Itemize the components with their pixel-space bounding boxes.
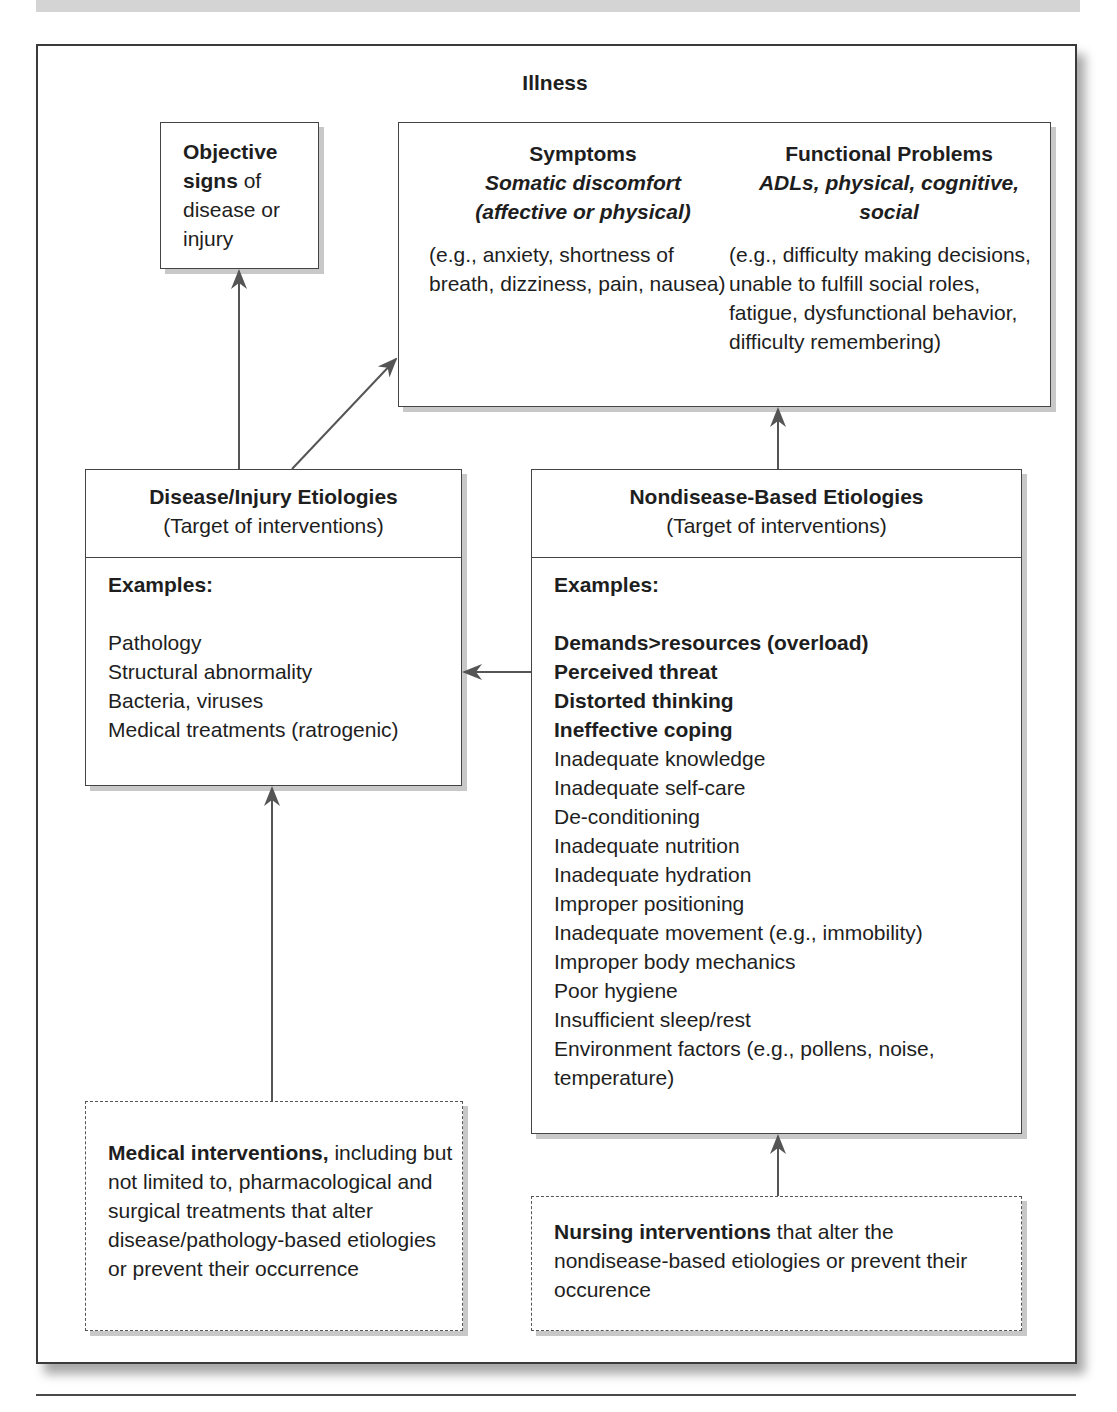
symptoms-subtitle-1: Somatic discomfort (423, 168, 743, 197)
list-item: Improper body mechanics (554, 947, 1021, 976)
nursing-interventions-bold: Nursing interventions (554, 1220, 771, 1243)
disease-etiologies-header: Disease/Injury Etiologies (Target of int… (86, 470, 461, 558)
list-item-bold: Perceived threat (554, 657, 1021, 686)
nondisease-etiologies-title: Nondisease-Based Etiologies (532, 482, 1021, 511)
nondisease-etiologies-box: Nondisease-Based Etiologies (Target of i… (531, 469, 1022, 1134)
list-item: Inadequate knowledge (554, 744, 1021, 773)
nondisease-etiologies-header: Nondisease-Based Etiologies (Target of i… (532, 470, 1021, 558)
objective-signs-box: Objective signs of disease or injury (160, 122, 319, 269)
list-item: Insufficient sleep/rest (554, 1005, 1021, 1034)
list-item: Improper positioning (554, 889, 1021, 918)
list-item: Structural abnormality (108, 657, 461, 686)
examples-label: Examples: (554, 570, 1021, 599)
disease-etiologies-subtitle: (Target of interventions) (86, 511, 461, 540)
symptoms-examples: (e.g., anxiety, shortness of breath, diz… (423, 240, 743, 298)
list-item: Inadequate movement (e.g., immobility) (554, 918, 1021, 947)
functional-problems-column: Functional Problems ADLs, physical, cogn… (729, 139, 1049, 356)
list-item: Medical treatments (ratrogenic) (108, 715, 461, 744)
functional-problems-title: Functional Problems (729, 139, 1049, 168)
nondisease-etiologies-body: Examples: Demands>resources (overload) P… (532, 558, 1021, 1092)
list-item: Inadequate self-care (554, 773, 1021, 802)
disease-etiologies-title: Disease/Injury Etiologies (86, 482, 461, 511)
functional-problems-examples: (e.g., difficulty making decisions, unab… (729, 240, 1049, 356)
list-item: Pathology (108, 628, 461, 657)
list-item-bold: Demands>resources (overload) (554, 628, 1021, 657)
list-item: Poor hygiene (554, 976, 1021, 1005)
symptoms-functional-box: Symptoms Somatic discomfort (affective o… (398, 122, 1051, 407)
list-item: Bacteria, viruses (108, 686, 461, 715)
objective-signs-bold: Objective signs (183, 140, 278, 192)
symptoms-title: Symptoms (423, 139, 743, 168)
nursing-interventions-box: Nursing interventions that alter the non… (531, 1196, 1022, 1331)
functional-problems-subtitle: ADLs, physical, cognitive, social (729, 168, 1049, 226)
list-item: Environment factors (e.g., pollens, nois… (554, 1034, 1021, 1092)
list-item-bold: Distorted thinking (554, 686, 1021, 715)
examples-label: Examples: (108, 570, 461, 599)
diagram-title: Illness (455, 71, 655, 95)
list-item: De-conditioning (554, 802, 1021, 831)
symptoms-column: Symptoms Somatic discomfort (affective o… (423, 139, 743, 298)
disease-etiologies-box: Disease/Injury Etiologies (Target of int… (85, 469, 462, 786)
bottom-rule (36, 1394, 1076, 1396)
medical-interventions-box: Medical interventions, including but not… (85, 1101, 463, 1331)
list-item-bold: Ineffective coping (554, 715, 1021, 744)
symptoms-subtitle-2: (affective or physical) (423, 197, 743, 226)
medical-interventions-bold: Medical interventions, (108, 1141, 329, 1164)
list-item: Inadequate nutrition (554, 831, 1021, 860)
list-item: Inadequate hydration (554, 860, 1021, 889)
nondisease-etiologies-subtitle: (Target of interventions) (532, 511, 1021, 540)
disease-etiologies-body: Examples: Pathology Structural abnormali… (86, 558, 461, 744)
top-banner (36, 0, 1080, 12)
